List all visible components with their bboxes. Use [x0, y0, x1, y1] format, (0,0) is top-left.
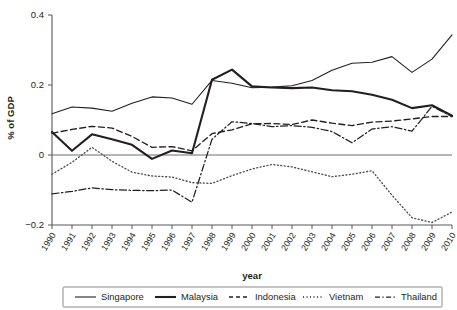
data-series-group	[52, 35, 452, 223]
x-tick-label: 1990	[39, 231, 58, 253]
x-tick-label: 2004	[319, 231, 338, 253]
x-tick-label: 2006	[359, 231, 378, 253]
x-tick-label: 1991	[59, 231, 78, 253]
series-line-malaysia	[52, 70, 452, 159]
y-tick-label: 0.4	[31, 9, 44, 20]
x-tick-label: 2008	[399, 231, 418, 253]
series-line-indonesia	[52, 117, 452, 151]
x-tick-label: 2005	[339, 231, 358, 253]
legend-label-indonesia: Indonesia	[255, 291, 296, 302]
x-tick-label: 1993	[99, 231, 118, 253]
legend-label-vietnam: Vietnam	[329, 291, 363, 302]
line-chart: 0.40.20−0.2 % of GDP 1990199119921993199…	[0, 0, 457, 310]
legend-label-malaysia: Malaysia	[181, 291, 219, 302]
y-tick-marks	[48, 15, 52, 225]
y-tick-label: 0	[39, 149, 44, 160]
x-tick-label: 1997	[179, 231, 198, 253]
x-tick-marks	[52, 225, 452, 229]
x-tick-label: 2001	[259, 231, 278, 253]
x-axis: 1990199119921993199419951996199719981999…	[39, 225, 457, 281]
y-tick-labels: 0.40.20−0.2	[25, 9, 44, 230]
chart-legend: SingaporeMalaysiaIndonesiaVietnamThailan…	[63, 287, 442, 307]
legend-label-thailand: Thailand	[401, 291, 437, 302]
x-tick-label: 2000	[239, 231, 258, 253]
y-tick-label: −0.2	[25, 219, 44, 230]
x-tick-label: 1998	[199, 231, 218, 253]
x-tick-label: 2010	[439, 231, 457, 253]
series-line-vietnam	[52, 147, 452, 222]
x-tick-label: 1992	[79, 231, 98, 253]
y-axis: 0.40.20−0.2 % of GDP	[5, 9, 52, 230]
y-tick-label: 0.2	[31, 79, 44, 90]
x-tick-label: 2002	[279, 231, 298, 253]
x-tick-label: 1995	[139, 231, 158, 253]
x-tick-label: 2003	[299, 231, 318, 253]
chart-container: 0.40.20−0.2 % of GDP 1990199119921993199…	[0, 0, 457, 310]
x-tick-label: 2009	[419, 231, 438, 253]
x-tick-label: 1999	[219, 231, 238, 253]
x-axis-title: year	[242, 270, 262, 281]
y-axis-title: % of GDP	[5, 96, 16, 140]
series-line-thailand	[52, 106, 452, 202]
x-tick-labels: 1990199119921993199419951996199719981999…	[39, 231, 457, 253]
x-tick-label: 1996	[159, 231, 178, 253]
legend-label-singapore: Singapore	[101, 291, 144, 302]
series-line-singapore	[52, 35, 452, 114]
x-tick-label: 2007	[379, 231, 398, 253]
x-tick-label: 1994	[119, 231, 138, 253]
